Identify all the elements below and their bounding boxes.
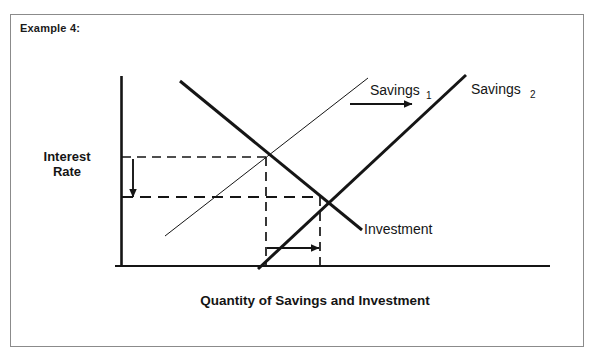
- curve-label-savings-1-subscript: 1: [426, 90, 432, 101]
- supply-demand-diagram: Interest Rate Savings 1 Savings 2 Invest…: [0, 0, 595, 362]
- curve-label-savings-1: Savings: [370, 82, 420, 98]
- y-axis-label-line2: Rate: [53, 164, 81, 179]
- curve-label-investment: Investment: [364, 221, 433, 237]
- x-axis-title: Quantity of Savings and Investment: [200, 293, 430, 308]
- curve-label-savings-2-subscript: 2: [530, 89, 536, 100]
- curve-label-savings-2: Savings: [471, 81, 521, 97]
- y-axis-label-line1: Interest: [44, 149, 92, 164]
